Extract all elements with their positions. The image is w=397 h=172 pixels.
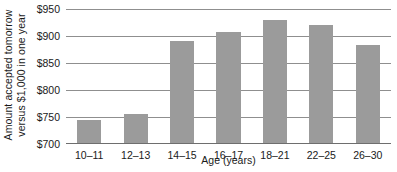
y-axis-title-line-2: versus $1,000 in one year (15, 13, 28, 136)
bar (356, 45, 380, 143)
x-axis-line (66, 143, 391, 144)
bar (216, 32, 240, 143)
y-axis-tick-label: $900 (37, 30, 60, 42)
bar (124, 114, 148, 143)
bar (309, 25, 333, 143)
x-axis-title: Age (years) (66, 154, 391, 166)
bar (77, 120, 101, 143)
y-axis-tick-label: $800 (37, 84, 60, 96)
bar (263, 20, 287, 143)
plot-area: $700$750$800$850$900$950 10–1112–1314–15… (66, 9, 391, 144)
y-axis-title-line-1: Amount accepted tomorrow (2, 10, 15, 141)
bar-series (66, 9, 391, 144)
y-axis-title: Amount accepted tomorrow versus $1,000 i… (0, 0, 30, 150)
y-axis-tick-label: $700 (37, 138, 60, 150)
bar-chart-figure: Amount accepted tomorrow versus $1,000 i… (0, 0, 397, 172)
y-axis-tick-label: $850 (37, 57, 60, 69)
y-axis-tick-label: $750 (37, 111, 60, 123)
y-axis-tick-label: $950 (37, 3, 60, 15)
bar (170, 41, 194, 143)
